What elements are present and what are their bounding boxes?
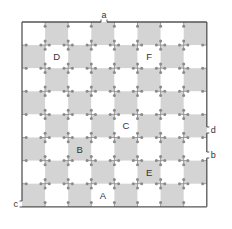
- light-cell: [138, 138, 161, 161]
- dark-cell: [138, 114, 161, 137]
- dark-cell: [91, 114, 114, 137]
- light-cell: [114, 68, 137, 91]
- edge-marker-c: c: [14, 199, 19, 209]
- light-cell: [45, 184, 68, 207]
- dark-cell: [184, 68, 207, 91]
- light-cell: [161, 68, 184, 91]
- light-cell: [184, 91, 207, 114]
- cell-label-b: B: [77, 144, 83, 155]
- light-cell: [184, 138, 207, 161]
- edge-marker-b: b: [211, 150, 216, 160]
- dark-cell: [45, 161, 68, 184]
- light-cell: [68, 22, 91, 45]
- edge-marker-a: a: [101, 10, 106, 20]
- dark-cell: [161, 138, 184, 161]
- light-cell: [91, 91, 114, 114]
- light-cell: [45, 91, 68, 114]
- dark-cell: [114, 184, 137, 207]
- dark-cell: [161, 45, 184, 68]
- light-cell: [161, 114, 184, 137]
- dark-cell: [114, 138, 137, 161]
- dark-cell: [22, 184, 45, 207]
- dark-cell: [91, 22, 114, 45]
- dark-cell: [22, 138, 45, 161]
- dark-cell: [184, 22, 207, 45]
- dark-cell: [114, 91, 137, 114]
- light-cell: [91, 138, 114, 161]
- light-cell: [114, 161, 137, 184]
- dark-cell: [68, 45, 91, 68]
- cell-label-e: E: [146, 167, 152, 178]
- dark-cell: [45, 68, 68, 91]
- dark-cell: [184, 161, 207, 184]
- puzzle-board: DFCBEA adbc: [0, 0, 232, 229]
- light-cell: [184, 45, 207, 68]
- light-cell: [68, 68, 91, 91]
- dark-cell: [184, 114, 207, 137]
- dark-cell: [138, 22, 161, 45]
- dark-cell: [45, 22, 68, 45]
- dark-cell: [138, 68, 161, 91]
- light-cell: [45, 138, 68, 161]
- cell-label-c: C: [123, 120, 130, 131]
- checkerboard-diagram: DFCBEA adbc: [0, 0, 232, 229]
- light-cell: [68, 161, 91, 184]
- light-cell: [161, 161, 184, 184]
- light-cell: [161, 22, 184, 45]
- light-cell: [22, 161, 45, 184]
- dark-cell: [114, 45, 137, 68]
- dark-cell: [91, 68, 114, 91]
- edge-marker-d: d: [211, 125, 216, 135]
- dark-cell: [68, 91, 91, 114]
- light-cell: [138, 91, 161, 114]
- light-cell: [138, 184, 161, 207]
- dark-cell: [22, 91, 45, 114]
- dark-cell: [161, 184, 184, 207]
- cell-label-d: D: [53, 51, 60, 62]
- light-cell: [68, 114, 91, 137]
- light-cell: [114, 22, 137, 45]
- dark-cell: [22, 45, 45, 68]
- light-cell: [22, 68, 45, 91]
- light-cell: [22, 114, 45, 137]
- dark-cell: [161, 91, 184, 114]
- dark-cell: [68, 184, 91, 207]
- cell-label-a: A: [100, 190, 107, 201]
- light-cell: [184, 184, 207, 207]
- dark-cell: [45, 114, 68, 137]
- light-cell: [91, 45, 114, 68]
- light-cell: [22, 22, 45, 45]
- dark-cell: [91, 161, 114, 184]
- cell-label-f: F: [146, 51, 152, 62]
